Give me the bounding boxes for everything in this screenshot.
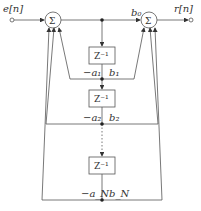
aN-label: −a_N (81, 188, 110, 200)
delay-label-1: Z⁻¹ (94, 51, 109, 61)
b0-label: b₀ (131, 7, 141, 18)
delay-label-2: Z⁻¹ (94, 94, 109, 104)
b1-label: b₁ (109, 67, 119, 78)
right-sum-symbol: Σ (145, 16, 151, 26)
output-label: r[n] (174, 3, 193, 14)
bN-label: b_N (109, 188, 130, 200)
delay-label-N: Z⁻¹ (94, 161, 109, 171)
output-node (189, 18, 193, 22)
signal-flow-diagram: e[n] r[n] Σ Σ b₀ Z⁻¹ Z⁻¹ Z⁻¹ −a₁ b₁ −a₂ … (0, 0, 201, 211)
left-sum-symbol: Σ (49, 16, 55, 26)
a1-label: −a₁ (83, 67, 101, 78)
input-node (10, 18, 14, 22)
a2-label: −a₂ (83, 112, 101, 123)
b2-label: b₂ (109, 112, 119, 123)
diagram-svg: e[n] r[n] Σ Σ b₀ Z⁻¹ Z⁻¹ Z⁻¹ −a₁ b₁ −a₂ … (0, 0, 201, 211)
input-label: e[n] (3, 3, 23, 14)
